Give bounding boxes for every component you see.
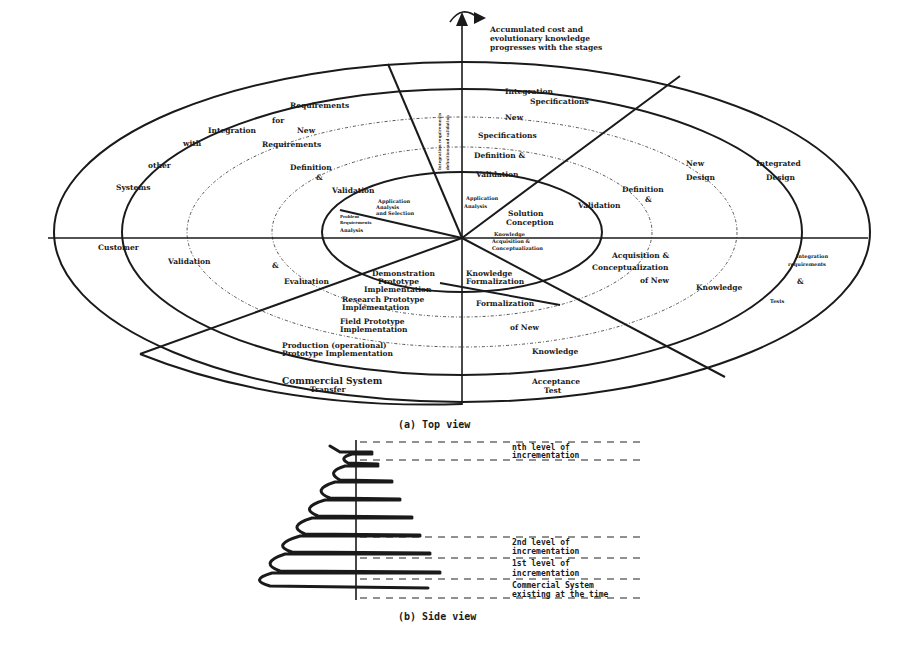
- label-field-2: Implementation: [340, 325, 408, 334]
- vertical-note-1: Integration requirements: [437, 112, 442, 170]
- label-customer: Customer: [98, 243, 140, 252]
- label-problem-3: Analysis: [339, 227, 363, 234]
- label-amp-left: &: [316, 173, 323, 182]
- label-int-req-right-2: requirements: [788, 261, 826, 268]
- label-integration-spec-2: Specifications: [530, 97, 589, 106]
- label-production-2: Prototype Implementation: [282, 349, 394, 358]
- label-acceptance: Acceptance: [531, 377, 580, 386]
- label-validation-left: Validation: [331, 186, 375, 195]
- label-new-design-1: New: [686, 159, 705, 168]
- label-requirements-new: Requirements: [262, 140, 321, 149]
- label-def-top: Definition &: [474, 151, 525, 160]
- label-solution: Solution: [508, 209, 544, 218]
- label-app-right-1: Application: [465, 195, 498, 202]
- label-acq-new-2: Conceptualization: [592, 263, 669, 272]
- level-1st-label-2: incrementation: [512, 568, 580, 578]
- label-int-req-right-3: &: [797, 277, 804, 286]
- level-nth-label-2: incrementation: [512, 450, 580, 460]
- level-2nd-label-2: incrementation: [512, 546, 580, 556]
- label-demo-3: Implementation: [364, 285, 432, 294]
- label-specifications: Specifications: [478, 131, 537, 140]
- label-commercial-2: Transfer: [310, 385, 347, 394]
- side-view-diagram: nth level of incrementation 2nd level of…: [259, 440, 640, 622]
- caption-top-view: (a) Top view: [398, 419, 471, 430]
- label-other: other: [148, 161, 172, 170]
- label-knowledge-acq-2: Acquisition &: [491, 238, 531, 245]
- label-form-new-2: of New: [510, 323, 539, 332]
- label-new-design-2: Design: [686, 173, 716, 182]
- label-definition-left: Definition: [290, 163, 332, 172]
- label-problem-1: Problem: [340, 214, 360, 219]
- label-acq-new-3: of New: [640, 276, 669, 285]
- vertical-note-2: definition and validation: [445, 115, 450, 170]
- label-research-2: Implementation: [342, 303, 410, 312]
- label-with: with: [182, 139, 202, 148]
- axis-note-line2: evolutionary knowledge: [490, 34, 590, 43]
- label-problem-2: Requirements: [340, 220, 372, 225]
- label-integrated-design-1: Integrated: [756, 159, 801, 168]
- label-int-req-right-4: Tests: [770, 298, 784, 304]
- caption-side-view: (b) Side view: [398, 611, 477, 622]
- label-int-req-right-1: Integration: [796, 253, 828, 260]
- rotation-arrowhead-icon: [474, 12, 486, 24]
- label-def-right: Definition: [622, 185, 664, 194]
- label-knowledge-form-2: Formalization: [466, 277, 525, 286]
- label-knowledge-acq-1: Knowledge: [494, 231, 525, 238]
- label-acq-new-1: Acquisition &: [611, 251, 669, 260]
- label-val-top: Validation: [475, 170, 519, 179]
- label-new-top: New: [505, 113, 524, 122]
- label-app-right-2: Analysis: [463, 203, 487, 210]
- axis-note-line3: progresses with the stages: [490, 43, 602, 52]
- label-new-left: New: [297, 126, 316, 135]
- label-knowledge-acq-3: Conceptualization: [492, 245, 543, 252]
- label-app-analysis-3: and Selection: [376, 210, 415, 216]
- level-1st-label-1: 1st level of: [512, 559, 570, 568]
- label-requirements: Requirements: [290, 101, 349, 110]
- label-form-new-1: Formalization: [476, 299, 535, 308]
- label-acq-new-4: Knowledge: [696, 283, 743, 292]
- spiral-side-profile: [259, 446, 440, 588]
- level-2nd-label-1: 2nd level of: [512, 538, 570, 547]
- label-amp-right: &: [645, 195, 652, 204]
- label-integration-spec-1: Integration: [505, 87, 554, 96]
- label-val-right: Validation: [577, 201, 621, 210]
- level-commercial-label-2: existing at the time: [512, 589, 609, 599]
- label-test: Test: [544, 386, 562, 395]
- level-commercial-label-1: Commercial System: [512, 580, 594, 590]
- label-systems: Systems: [116, 183, 150, 192]
- label-conception: Conception: [506, 218, 554, 227]
- top-view-diagram: Accumulated cost and evolutionary knowle…: [48, 12, 870, 430]
- spiral-model-figure: Accumulated cost and evolutionary knowle…: [0, 0, 910, 657]
- label-for: for: [272, 116, 285, 125]
- label-validation-eval: Validation: [167, 257, 211, 266]
- axis-note-line1: Accumulated cost and: [489, 25, 584, 34]
- label-integration: Integration: [208, 126, 257, 135]
- label-evaluation: Evaluation: [284, 277, 329, 286]
- label-amp-eval: &: [272, 261, 279, 270]
- label-integrated-design-2: Design: [766, 173, 796, 182]
- label-form-new-3: Knowledge: [532, 347, 579, 356]
